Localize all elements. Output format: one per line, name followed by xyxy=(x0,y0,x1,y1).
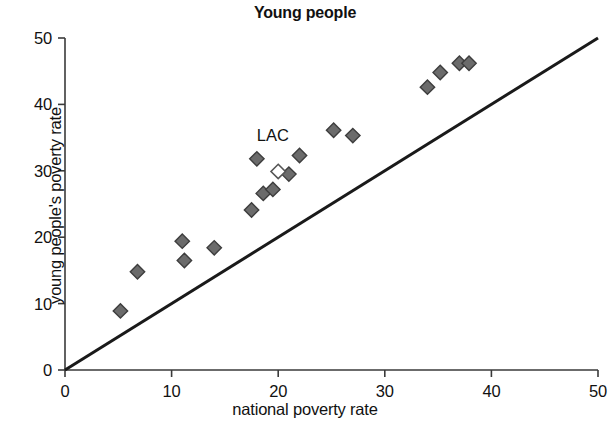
data-point xyxy=(177,253,191,267)
x-axis-tick-label: 0 xyxy=(61,382,70,400)
data-point xyxy=(113,304,127,318)
x-axis-tick-label: 40 xyxy=(482,382,500,400)
x-axis-label: national poverty rate xyxy=(0,400,610,419)
data-point xyxy=(244,203,258,217)
x-axis-tick-label: 10 xyxy=(163,382,181,400)
data-point xyxy=(250,152,264,166)
scatter-plot-canvas: 0102030405001020304050 LAC xyxy=(0,0,610,430)
chart-figure: Young people 0102030405001020304050 LAC … xyxy=(0,0,610,430)
data-point xyxy=(462,56,476,70)
data-points-group xyxy=(113,56,476,318)
data-point xyxy=(292,148,306,162)
x-axis-tick-label: 20 xyxy=(269,382,287,400)
reference-line xyxy=(65,38,598,370)
data-point xyxy=(346,128,360,142)
data-point xyxy=(420,80,434,94)
data-point xyxy=(326,123,340,137)
data-point xyxy=(207,241,221,255)
annotation-group: LAC xyxy=(257,126,289,144)
x-axis-tick-label: 30 xyxy=(376,382,394,400)
data-point xyxy=(175,234,189,248)
data-point xyxy=(433,65,447,79)
y-axis-label: young people's poverty rate xyxy=(46,41,65,371)
data-point xyxy=(130,265,144,279)
reference-line-group xyxy=(65,38,598,370)
x-axis-tick-label: 50 xyxy=(589,382,607,400)
annotation-lac-label: LAC xyxy=(257,126,289,144)
